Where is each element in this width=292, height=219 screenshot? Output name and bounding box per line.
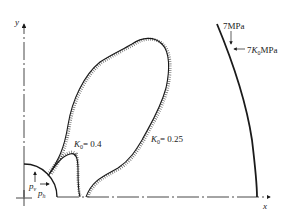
plastic-zone-k025 [50,38,169,197]
diagram-canvas: y x pv ph 7MPa 7K0MPa K0= 0.4 K0= 0.25 [0,0,292,219]
x-axis-label: x [262,201,267,211]
vertical-load-label: 7MPa [223,21,245,31]
horizontal-load-label: 7K0MPa [247,45,278,56]
k0-025-label: K0= 0.25 [150,134,184,145]
plastic-zone-diagram: y x pv ph 7MPa 7K0MPa K0= 0.4 K0= 0.25 [0,0,292,219]
k0-04-label: K0= 0.4 [73,139,102,150]
plastic-zone-k04 [48,154,80,197]
ph-label: ph [37,188,46,199]
y-axis-label: y [14,17,19,27]
pv-label: pv [28,181,37,192]
